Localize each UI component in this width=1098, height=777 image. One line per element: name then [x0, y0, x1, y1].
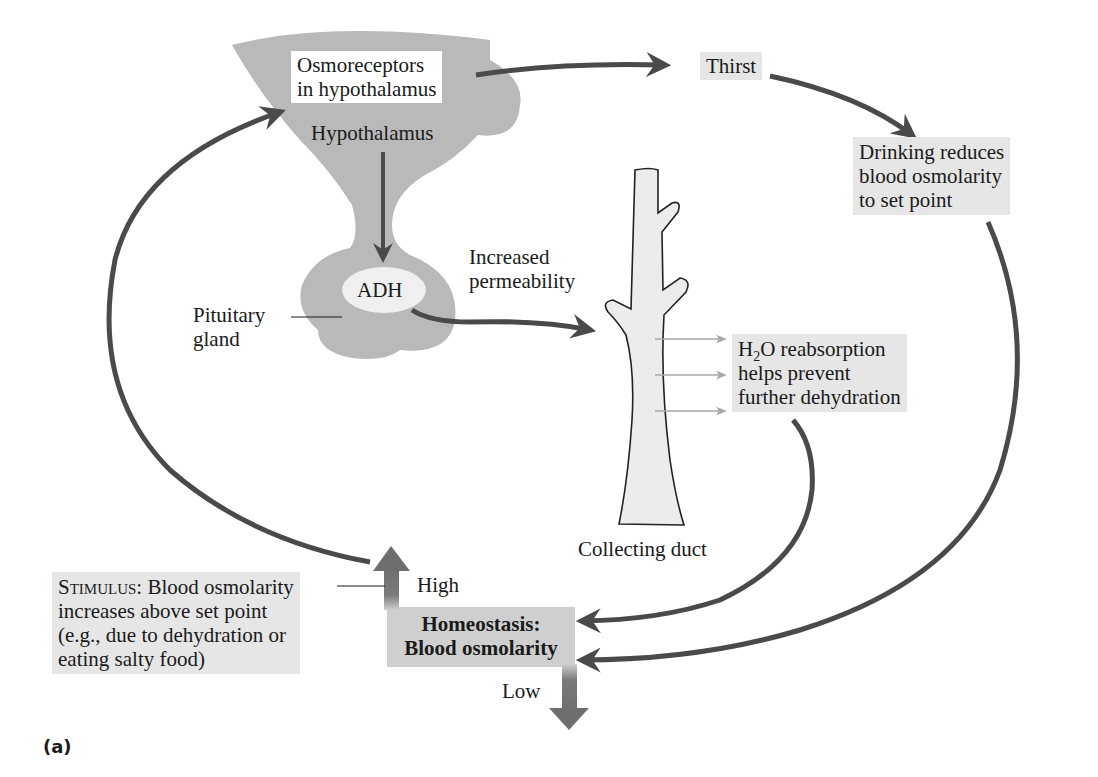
high-up-arrow [373, 546, 410, 610]
osmoreceptors-to-thirst-arrow [476, 64, 665, 75]
reabsorption-box: H2O reabsorption helps prevent further d… [732, 334, 907, 412]
osmoreceptors-box: Osmoreceptors in hypothalamus [291, 51, 442, 103]
stimulus-line3: (e.g., due to dehydration or [58, 623, 294, 647]
stimulus-line1: Stimulus: Blood osmolarity [58, 575, 294, 599]
osmoreceptors-line1: Osmoreceptors [297, 53, 436, 77]
low-down-arrow [549, 664, 589, 730]
pituitary-line1: Pituitary [193, 303, 265, 327]
homeostasis-box: Homeostasis: Blood osmolarity [387, 612, 575, 660]
water-reabsorption-arrows [655, 339, 725, 411]
drinking-line2: blood osmolarity [859, 164, 1004, 188]
low-label: Low [502, 679, 541, 703]
thirst-to-drinking-arrow [770, 76, 912, 135]
stimulus-keyword: Stimulus [58, 575, 136, 599]
reabsorption-line3: further dehydration [738, 385, 901, 409]
increased-permeability-line2: permeability [469, 269, 575, 293]
stimulus-line4: eating salty food) [58, 647, 294, 671]
high-label: High [417, 573, 459, 597]
h-symbol: H [738, 337, 753, 361]
pituitary-line2: gland [193, 327, 265, 351]
reabsorption-text: O reabsorption [760, 337, 885, 361]
thirst-box: Thirst [700, 52, 762, 80]
osmoreceptors-line2: in hypothalamus [297, 77, 436, 101]
stimulus-line2: increases above set point [58, 599, 294, 623]
homeostasis-line1: Homeostasis: [387, 612, 575, 636]
stimulus-box: Stimulus: Blood osmolarity increases abo… [52, 572, 300, 674]
collecting-duct-label: Collecting duct [578, 537, 707, 561]
stimulus-line1-rest: : Blood osmolarity [136, 575, 294, 599]
drinking-line1: Drinking reduces [859, 140, 1004, 164]
reabsorption-line1: H2O reabsorption [738, 337, 901, 361]
reabsorption-line2: helps prevent [738, 361, 901, 385]
pituitary-gland-label: Pituitary gland [193, 303, 265, 351]
panel-label: (a) [43, 735, 72, 759]
collecting-duct-shape [605, 169, 688, 526]
drinking-box: Drinking reduces blood osmolarity to set… [853, 137, 1010, 215]
adh-label: ADH [357, 278, 403, 302]
reabsorption-to-homeostasis-arrow [582, 420, 812, 621]
increased-permeability-label: Increased permeability [469, 245, 575, 293]
hypothalamus-label: Hypothalamus [311, 121, 433, 145]
increased-permeability-line1: Increased [469, 245, 575, 269]
drinking-line3: to set point [859, 188, 1004, 212]
homeostasis-line2: Blood osmolarity [387, 636, 575, 660]
